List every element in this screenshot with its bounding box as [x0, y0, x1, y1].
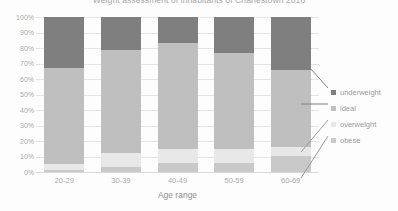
chart-legend: underweightidealoverweightobese	[331, 84, 381, 148]
gridline	[36, 172, 319, 173]
bar-segment-obese[interactable]	[271, 156, 311, 172]
bar-segment-obese[interactable]	[101, 167, 141, 172]
bar-segment-overweight[interactable]	[214, 149, 254, 163]
chart-container: Weight assessment of inhabitants of Char…	[0, 0, 398, 211]
plot-area	[36, 17, 319, 172]
legend-item-ideal[interactable]: ideal	[331, 100, 381, 116]
legend-label: ideal	[340, 104, 356, 113]
bar-segment-ideal[interactable]	[214, 53, 254, 149]
legend-swatch-icon	[331, 90, 336, 95]
bar-segment-ideal[interactable]	[44, 68, 84, 164]
chart-title: Weight assessment of inhabitants of Char…	[0, 0, 398, 5]
x-axis-title: Age range	[36, 190, 319, 200]
bar-segment-ideal[interactable]	[158, 43, 198, 148]
y-axis-tick-label: 20%	[4, 138, 34, 145]
bar-segment-overweight[interactable]	[271, 147, 311, 156]
bar-segment-obese[interactable]	[214, 163, 254, 172]
y-axis-tick-label: 70%	[4, 60, 34, 67]
legend-swatch-icon	[331, 106, 336, 111]
y-axis-tick-label: 40%	[4, 107, 34, 114]
bar-stack[interactable]	[271, 17, 311, 172]
bar-segment-underweight[interactable]	[158, 17, 198, 43]
y-axis-tick-label: 50%	[4, 91, 34, 98]
bar-segment-underweight[interactable]	[44, 17, 84, 68]
y-axis-tick-label: 30%	[4, 122, 34, 129]
legend-item-overweight[interactable]: overweight	[331, 116, 381, 132]
x-axis-tick-label: 20-29	[36, 176, 92, 185]
y-axis-tick-label: 90%	[4, 29, 34, 36]
y-axis-tick-label: 60%	[4, 76, 34, 83]
bar-segment-underweight[interactable]	[271, 17, 311, 70]
x-axis-tick-label: 50-59	[206, 176, 262, 185]
legend-label: overweight	[340, 120, 376, 129]
legend-label: underweight	[340, 88, 381, 97]
bar-stack[interactable]	[101, 17, 141, 172]
bar-stack[interactable]	[214, 17, 254, 172]
bar-segment-overweight[interactable]	[101, 153, 141, 167]
bar-segment-ideal[interactable]	[101, 50, 141, 154]
y-axis-tick-label: 80%	[4, 45, 34, 52]
legend-label: obese	[340, 136, 360, 145]
y-axis-tick-label: 10%	[4, 153, 34, 160]
bar-segment-overweight[interactable]	[158, 149, 198, 163]
x-axis-tick-label: 40-49	[150, 176, 206, 185]
bar-stack[interactable]	[44, 17, 84, 172]
bar-segment-ideal[interactable]	[271, 70, 311, 148]
legend-item-underweight[interactable]: underweight	[331, 84, 381, 100]
y-axis-tick-label: 100%	[4, 14, 34, 21]
legend-swatch-icon	[331, 138, 336, 143]
bar-segment-underweight[interactable]	[214, 17, 254, 53]
bar-segment-underweight[interactable]	[101, 17, 141, 50]
bar-segment-obese[interactable]	[158, 163, 198, 172]
x-axis-tick-label: 60-69	[263, 176, 319, 185]
legend-swatch-icon	[331, 122, 336, 127]
bar-segment-obese[interactable]	[44, 170, 84, 172]
bar-stack[interactable]	[158, 17, 198, 172]
y-axis-tick-label: 0%	[4, 169, 34, 176]
x-axis-tick-label: 30-39	[93, 176, 149, 185]
legend-item-obese[interactable]: obese	[331, 132, 381, 148]
